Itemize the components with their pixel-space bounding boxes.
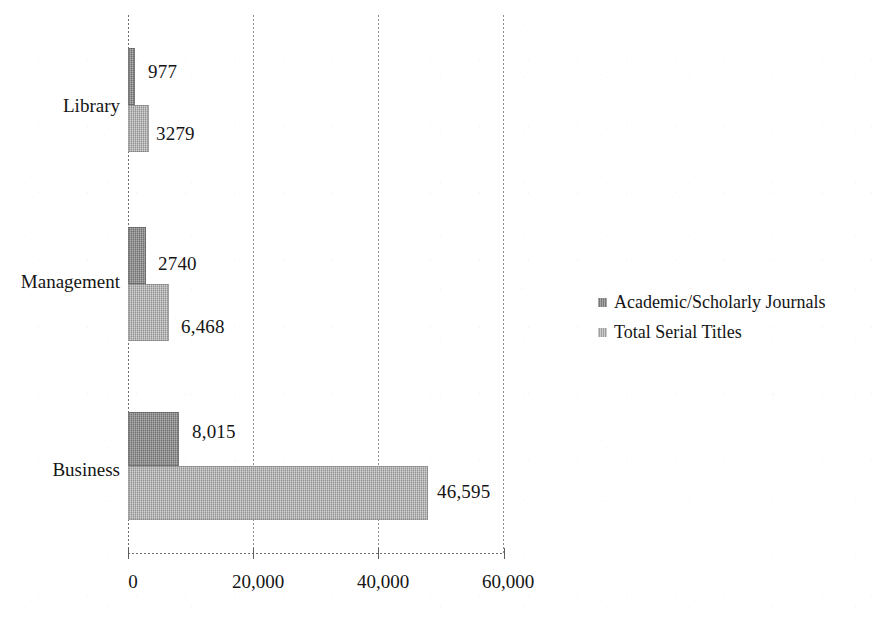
legend-label-series-1: Total Serial Titles: [614, 322, 742, 343]
legend-swatch-icon-series-0: [598, 298, 607, 307]
legend-label-series-0: Academic/Scholarly Journals: [614, 292, 825, 313]
bar-library-total-serial-titles: [128, 105, 149, 152]
bar-business-total-serial-titles: [128, 466, 428, 520]
x-tick-label-40000: 40,000: [357, 572, 409, 592]
value-label-library-academic: 977: [148, 62, 177, 81]
x-axis-tick-40000: [378, 548, 379, 559]
bar-library-academic-scholarly-journals: [128, 48, 135, 105]
value-label-management-total: 6,468: [181, 317, 225, 336]
x-tick-label-60000: 60,000: [482, 572, 534, 592]
plot-area: [128, 15, 504, 553]
legend-item-academic-scholarly-journals: Academic/Scholarly Journals: [598, 292, 860, 313]
horizontal-bar-chart: 977 3279 2740 6,468 8,015 46,595 Library…: [0, 0, 872, 618]
legend-item-total-serial-titles: Total Serial Titles: [598, 322, 860, 343]
value-label-library-total: 3279: [156, 124, 195, 143]
bar-management-total-serial-titles: [128, 284, 169, 341]
category-label-library: Library: [63, 96, 120, 115]
chart-legend: Academic/Scholarly Journals Total Serial…: [598, 292, 860, 352]
value-label-business-academic: 8,015: [192, 422, 236, 441]
x-axis-tick-0: [128, 548, 129, 559]
category-axis-labels: Library Management Business: [0, 0, 120, 618]
x-axis-line: [128, 553, 505, 554]
value-label-management-academic: 2740: [158, 254, 197, 273]
x-axis-tick-20000: [253, 548, 254, 559]
x-tick-label-20000: 20,000: [232, 572, 284, 592]
gridline-60000: [503, 15, 504, 553]
category-label-business: Business: [52, 460, 120, 479]
legend-swatch-icon-series-1: [598, 328, 607, 337]
x-tick-label-0: 0: [128, 572, 138, 592]
value-label-business-total: 46,595: [437, 482, 490, 501]
x-axis-tick-60000: [504, 548, 505, 559]
bar-management-academic-scholarly-journals: [128, 227, 146, 284]
bar-business-academic-scholarly-journals: [128, 412, 179, 466]
category-label-management: Management: [21, 272, 120, 291]
